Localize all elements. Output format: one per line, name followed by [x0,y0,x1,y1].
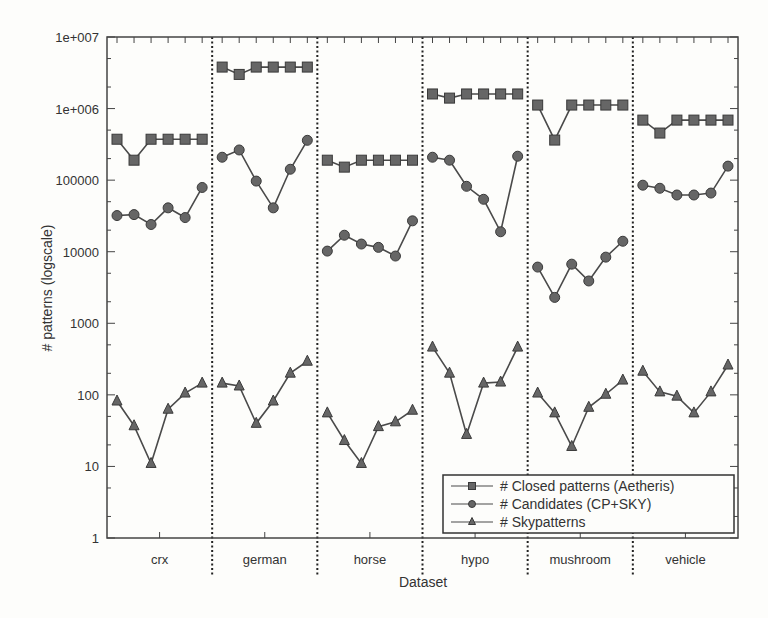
data-point [408,216,418,226]
data-point [251,62,261,72]
data-point [655,183,665,193]
data-point [462,428,472,438]
data-point [428,152,438,162]
data-point [496,376,506,386]
data-point [356,239,366,249]
data-point [180,213,190,223]
x-tick-label-horse: horse [354,552,387,567]
data-point [234,145,244,155]
data-point [479,89,489,99]
plot-frame [107,37,738,538]
data-point [513,341,523,351]
data-point [689,190,699,200]
y-tick-label: 1e+006 [55,102,99,117]
data-point [390,251,400,261]
legend-label: # Skypatterns [500,514,586,530]
data-point [180,387,190,397]
data-point [533,100,543,110]
data-point [373,242,383,252]
data-point [234,69,244,79]
data-point [322,246,332,256]
data-point [723,161,733,171]
x-tick-label-crx: crx [151,552,169,567]
y-tick-label: 100000 [56,173,99,188]
y-tick-label: 100 [77,388,99,403]
data-point [462,181,472,191]
data-point [129,210,139,220]
data-point [533,387,543,397]
data-point [356,155,366,165]
data-point [146,134,156,144]
data-point [112,134,122,144]
data-point [672,190,682,200]
data-point [197,182,207,192]
data-point [638,115,648,125]
data-point [567,440,577,450]
data-point [655,128,665,138]
data-point [584,100,594,110]
data-point [584,401,594,411]
data-point [618,100,628,110]
data-point [408,404,418,414]
data-point [302,135,312,145]
data-point [706,115,716,125]
y-tick-label: 10 [85,459,99,474]
data-point [163,134,173,144]
data-point [584,276,594,286]
data-point [217,152,227,162]
data-point [706,188,716,198]
data-point [302,62,312,72]
data-point [217,377,227,387]
legend-label: # Candidates (CP+SKY) [500,496,651,512]
data-point [672,115,682,125]
data-point [146,220,156,230]
x-tick-label-german: german [243,552,287,567]
data-point [533,262,543,272]
data-point [302,355,312,365]
data-point [638,180,648,190]
data-point [496,89,506,99]
data-point [285,367,295,377]
data-point [339,230,349,240]
x-tick-label-mushroom: mushroom [550,552,611,567]
y-tick-label: 10000 [63,245,99,260]
data-point [567,100,577,110]
data-point [445,155,455,165]
x-tick-label-hypo: hypo [461,552,489,567]
data-point [723,359,733,369]
y-axis-title: # patterns (logscale) [39,225,55,352]
chart: 1101001000100001000001e+0061e+007 crxger… [0,0,768,618]
data-point [197,377,207,387]
data-point [217,62,227,72]
data-point [445,93,455,103]
data-point [513,89,523,99]
data-point [408,155,418,165]
data-point [550,292,560,302]
data-point [129,155,139,165]
data-point [163,203,173,213]
circle-marker-icon [469,501,476,508]
y-axis: 1101001000100001000001e+0061e+007 [55,30,738,546]
data-point [390,416,400,426]
data-point [428,341,438,351]
data-point [112,395,122,405]
data-point [723,115,733,125]
y-tick-label: 1 [92,531,99,546]
data-point [462,89,472,99]
data-point [251,176,261,186]
x-tick-label-vehicle: vehicle [665,552,705,567]
data-point [428,89,438,99]
data-point [550,135,560,145]
data-point [479,194,489,204]
data-point [373,155,383,165]
data-point [618,374,628,384]
data-point [197,134,207,144]
data-point [513,151,523,161]
data-point [601,252,611,262]
data-point [112,211,122,221]
legend-label: # Closed patterns (Aetheris) [500,478,674,494]
data-point [601,100,611,110]
data-point [567,259,577,269]
data-point [390,155,400,165]
data-point [146,457,156,467]
